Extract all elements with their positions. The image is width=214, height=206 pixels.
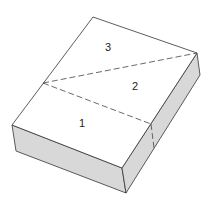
- region-label-3: 3: [105, 41, 111, 53]
- box-svg: 1 2 3: [0, 0, 214, 206]
- region-label-2: 2: [132, 80, 138, 92]
- box-diagram: 1 2 3: [0, 0, 214, 206]
- region-label-1: 1: [79, 117, 85, 129]
